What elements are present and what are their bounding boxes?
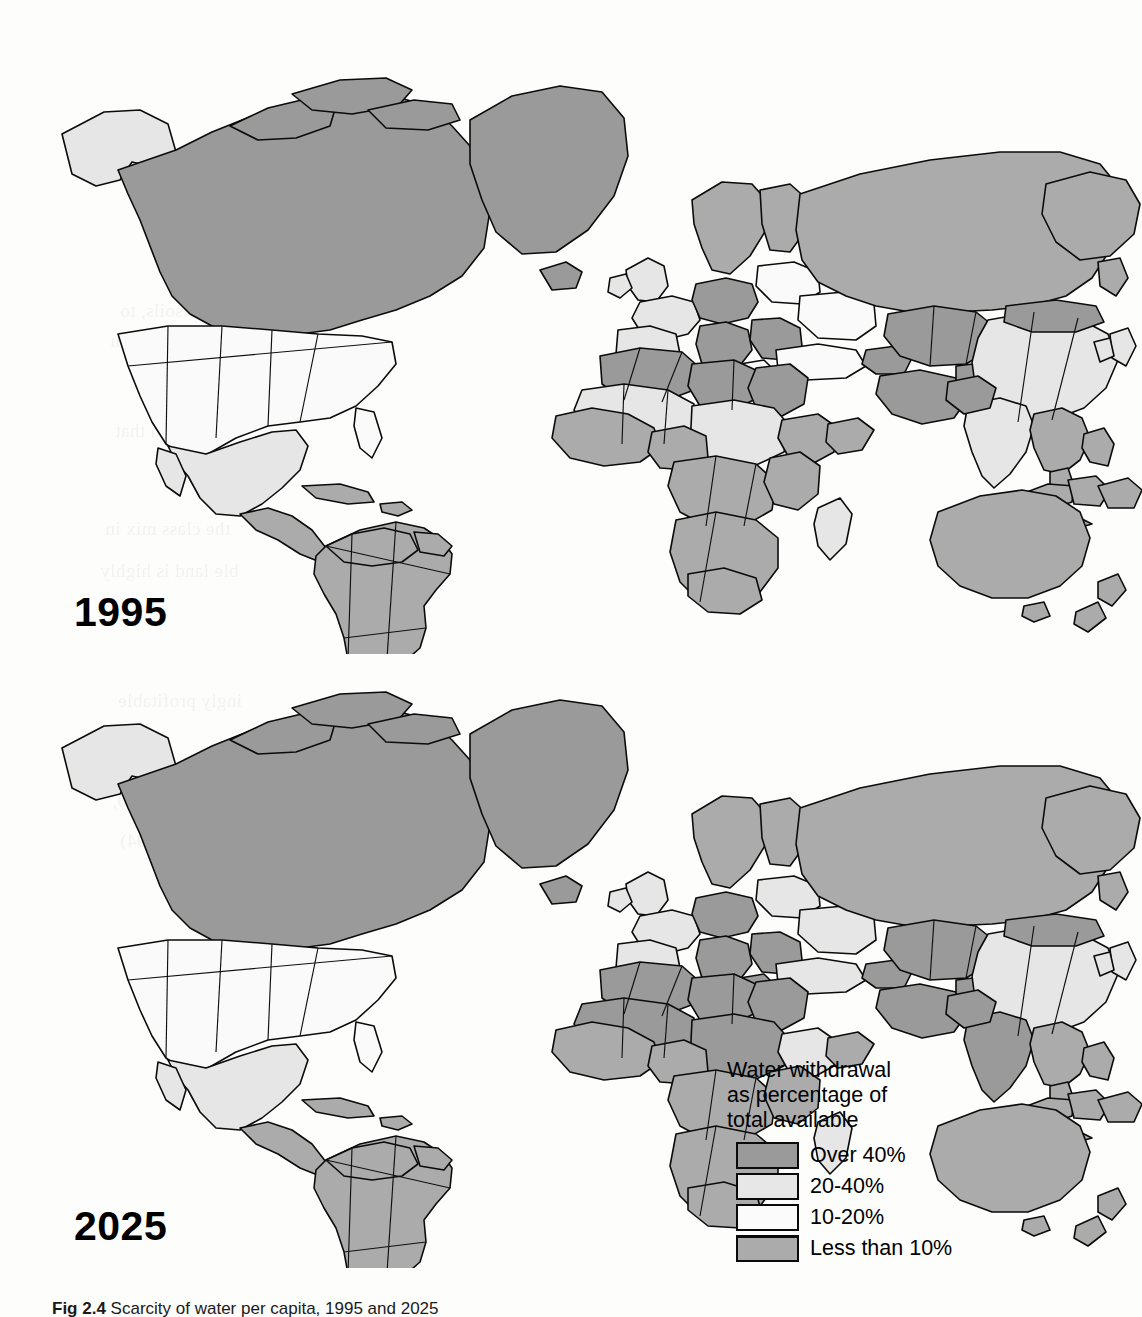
legend-item-less-than-10[interactable]: Less than 10%	[736, 1233, 952, 1264]
region-mongolia	[1004, 300, 1104, 332]
region-iceland	[540, 262, 582, 290]
region-germany-poland	[692, 278, 758, 324]
region-new-guinea	[1098, 1092, 1142, 1122]
region-tasmania	[1022, 602, 1050, 622]
region-kamchatka	[1098, 258, 1128, 296]
legend-label-20-40: 20-40%	[810, 1176, 884, 1198]
region-greenland	[470, 700, 628, 868]
region-new-zealand	[1098, 574, 1126, 606]
legend-swatch-10-20	[736, 1204, 799, 1231]
year-label-2025: 2025	[74, 1206, 167, 1247]
region-ireland	[608, 274, 632, 298]
region-southeast-asia	[1030, 1022, 1090, 1088]
region-cuba	[302, 1098, 374, 1118]
map-svg-1995	[0, 34, 1142, 654]
region-central-america	[240, 508, 326, 562]
region-mongolia	[1004, 914, 1104, 946]
world-map-1995	[0, 34, 1142, 654]
year-label-1995: 1995	[74, 592, 167, 633]
legend-item-10-20[interactable]: 10-20%	[736, 1202, 952, 1233]
region-horn-of-africa	[826, 418, 874, 454]
legend-item-20-40[interactable]: 20-40%	[736, 1171, 952, 1202]
region-hispaniola	[380, 1116, 412, 1130]
region-greenland	[470, 86, 628, 254]
region-british-isles	[626, 872, 668, 916]
region-philippines	[1082, 428, 1114, 466]
map-svg-2025	[0, 648, 1142, 1268]
region-central-america	[240, 1122, 326, 1176]
region-australia	[930, 1104, 1090, 1212]
legend-label-over40: Over 40%	[810, 1145, 906, 1167]
region-scandinavia	[692, 182, 768, 274]
legend-items: Over 40% 20-40% 10-20% Less than 10%	[736, 1140, 952, 1264]
region-kamchatka	[1098, 872, 1128, 910]
figure-caption-text: Scarcity of water per capita, 1995 and 2…	[111, 1299, 439, 1317]
figure-caption-number: Fig 2.4	[52, 1299, 106, 1317]
region-tasmania	[1022, 1216, 1050, 1236]
region-guianas	[414, 532, 452, 556]
region-new-zealand-south	[1074, 602, 1106, 632]
region-british-isles	[626, 258, 668, 302]
region-new-zealand-south	[1074, 1216, 1106, 1246]
region-cuba	[302, 484, 374, 504]
region-iceland	[540, 876, 582, 904]
legend-label-less-than-10: Less than 10%	[810, 1238, 952, 1260]
region-germany-poland	[692, 892, 758, 938]
region-ireland	[608, 888, 632, 912]
region-florida	[354, 1022, 382, 1072]
region-florida	[354, 408, 382, 458]
legend-swatch-20-40	[736, 1173, 799, 1200]
region-southeast-asia	[1030, 408, 1090, 474]
legend-swatch-over40	[736, 1142, 799, 1169]
legend-label-10-20: 10-20%	[810, 1207, 884, 1229]
figure-water-withdrawal-maps: 1995	[0, 0, 1142, 1317]
legend-item-over40[interactable]: Over 40%	[736, 1140, 952, 1171]
map-legend: Water withdrawal as percentage of total …	[727, 1058, 952, 1264]
region-madagascar	[814, 498, 852, 560]
legend-swatch-less-than-10	[736, 1235, 799, 1262]
region-scandinavia	[692, 796, 768, 888]
region-australia	[930, 490, 1090, 598]
world-map-2025	[0, 648, 1142, 1268]
region-philippines	[1082, 1042, 1114, 1080]
region-new-zealand	[1098, 1188, 1126, 1220]
legend-title: Water withdrawal as percentage of total …	[727, 1058, 952, 1133]
region-hispaniola	[380, 502, 412, 516]
region-guianas	[414, 1146, 452, 1170]
region-new-guinea	[1098, 478, 1142, 508]
figure-caption: Fig 2.4 Scarcity of water per capita, 19…	[52, 1299, 439, 1317]
region-east-africa	[764, 452, 820, 510]
